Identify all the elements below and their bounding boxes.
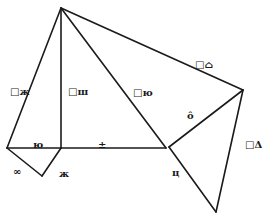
label-ad: □ш [68,86,88,97]
label-ed: ж [59,168,69,179]
diagram-segments [7,8,243,212]
label-be: ∞ [13,166,21,177]
label-bd: ю [33,139,43,150]
label-af: □⌂ [195,59,213,70]
segment-ac [61,8,166,148]
label-hg: ц [172,167,180,178]
diagram-labels: □ж□ш□ю□⌂ô□Δю±∞жц [10,59,262,179]
label-ab: □ж [10,86,30,97]
segment-ab [7,8,61,148]
label-ac: □ю [133,87,153,98]
label-dc: ± [98,139,106,150]
label-hf: ô [187,110,194,121]
label-fg: □Δ [245,139,262,150]
segment-hg [169,147,216,212]
segment-af [61,8,243,90]
geometry-diagram: □ж□ш□ю□⌂ô□Δю±∞жц [0,0,271,224]
